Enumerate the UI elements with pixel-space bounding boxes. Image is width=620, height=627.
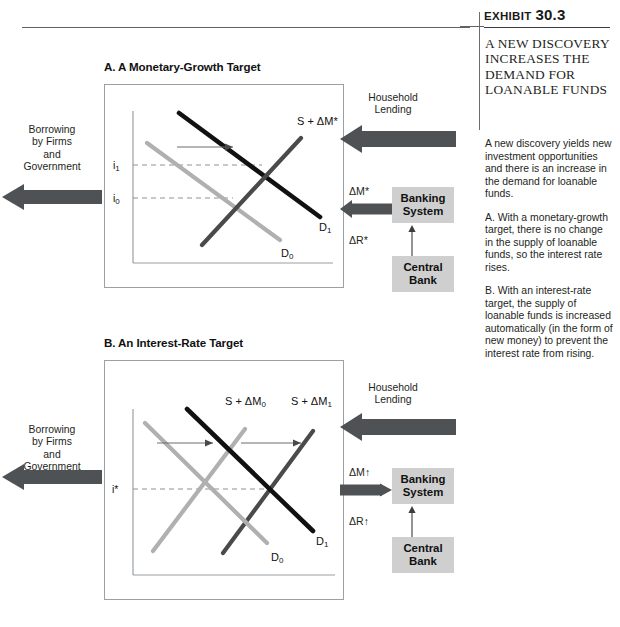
panel-b-plot: S + ΔM0 S + ΔM1 D1 D0 i* bbox=[104, 360, 344, 600]
exhibit-paragraph-1: A new discovery yields new investment op… bbox=[485, 138, 613, 201]
panel-a-left-caption: Borrowingby FirmsandGovernment bbox=[4, 124, 100, 174]
panel-a-delta-m-label: ΔM* bbox=[349, 185, 369, 197]
exhibit-word: Exhibit bbox=[484, 10, 531, 22]
panel-b-banking-system-label: BankingSystem bbox=[401, 473, 446, 499]
exhibit-page: A. A Monetary-Growth Target bbox=[0, 0, 620, 627]
panel-b-household-lending-arrow bbox=[340, 412, 458, 442]
panel-a-banking-system-box: BankingSystem bbox=[392, 187, 454, 223]
panel-a-title: A. A Monetary-Growth Target bbox=[104, 60, 261, 73]
panel-a-left-caption-text: Borrowingby FirmsandGovernment bbox=[23, 124, 80, 172]
panel-a-delta-r-label: ΔR* bbox=[349, 234, 368, 246]
panel-a-chart: S + ΔM* D1 D0 i1 i0 bbox=[105, 85, 343, 287]
exhibit-title: A NEW DISCOVERY INCREASES THE DEMAND FOR… bbox=[485, 36, 619, 98]
panel-b-supply-new-label: S + ΔM1 bbox=[291, 395, 332, 409]
exhibit-header: Exhibit30.3 bbox=[484, 6, 620, 24]
sidebar-vertical-divider bbox=[479, 12, 480, 130]
exhibit-paragraph-3: B. With an interest-rate target, the sup… bbox=[485, 285, 613, 360]
panel-b-istar-label: i* bbox=[112, 483, 118, 495]
panel-a-central-bank-label: CentralBank bbox=[403, 261, 442, 287]
panel-a-i0-label: i0 bbox=[113, 192, 120, 206]
panel-b-delta-r-label: ΔR↑ bbox=[349, 515, 369, 527]
panel-b-household-lending-caption: HouseholdLending bbox=[352, 382, 434, 407]
panel-a-banking-system-label: BankingSystem bbox=[401, 192, 446, 218]
panel-a-plot: S + ΔM* D1 D0 i1 i0 bbox=[104, 84, 344, 288]
exhibit-header-rule bbox=[484, 27, 610, 28]
panel-b-delta-m-arrow bbox=[340, 481, 392, 499]
panel-b-supply-shift-arrow bbox=[241, 440, 301, 447]
panel-b-supply-new-curve bbox=[223, 431, 313, 553]
panel-b-demand-new-curve bbox=[187, 409, 313, 531]
panel-a-i1-label: i1 bbox=[113, 159, 120, 173]
panel-a-borrowing-arrow bbox=[2, 182, 102, 212]
panel-b-delta-m-label: ΔM↑ bbox=[349, 466, 370, 478]
panel-b-central-bank-label: CentralBank bbox=[403, 542, 442, 568]
exhibit-number: 30.3 bbox=[535, 6, 565, 23]
panel-b-chart: S + ΔM0 S + ΔM1 D1 D0 i* bbox=[105, 361, 343, 599]
panel-b-borrowing-arrow bbox=[2, 462, 102, 492]
panel-a-supply-label: S + ΔM* bbox=[297, 115, 338, 127]
panel-a-household-lending-arrow bbox=[340, 124, 458, 154]
exhibit-sidebar: Exhibit30.3 A NEW DISCOVERY INCREASES TH… bbox=[484, 0, 620, 627]
panel-b-banking-system-box: BankingSystem bbox=[392, 468, 454, 504]
panel-a-demand-old-label: D0 bbox=[281, 247, 294, 261]
panel-a-central-bank-box: CentralBank bbox=[392, 256, 454, 292]
figure-column: A. A Monetary-Growth Target bbox=[0, 0, 470, 627]
panel-b-title: B. An Interest-Rate Target bbox=[104, 336, 243, 349]
panel-b-demand-old-label: D0 bbox=[271, 551, 284, 565]
panel-a-demand-old-curve bbox=[147, 143, 280, 240]
panel-b-delta-r-arrow bbox=[404, 506, 420, 538]
panel-a-household-lending-caption: HouseholdLending bbox=[352, 92, 434, 117]
exhibit-paragraph-2: A. With a monetary-growth target, there … bbox=[485, 212, 613, 275]
exhibit-description: A new discovery yields new investment op… bbox=[485, 138, 613, 371]
panel-a-delta-m-arrow bbox=[340, 200, 392, 218]
panel-a-delta-r-arrow bbox=[404, 225, 420, 257]
panel-b-demand-new-label: D1 bbox=[316, 535, 329, 549]
panel-b-central-bank-box: CentralBank bbox=[392, 537, 454, 573]
panel-a-demand-new-label: D1 bbox=[319, 221, 332, 235]
panel-b-supply-old-label: S + ΔM0 bbox=[225, 395, 266, 409]
